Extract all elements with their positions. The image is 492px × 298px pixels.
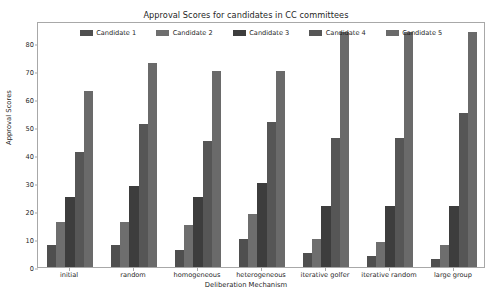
bar [367, 256, 376, 267]
legend-swatch-icon [80, 30, 93, 36]
bar [385, 206, 394, 268]
bar [212, 71, 221, 267]
bar [184, 225, 193, 267]
bar [395, 138, 404, 267]
x-axis-label: Deliberation Mechanism [0, 281, 492, 289]
plot-inner [38, 23, 484, 267]
x-axis-tick-label: iterative random [361, 271, 416, 279]
bar [111, 245, 120, 267]
legend-entry[interactable]: Candidate 1 [80, 29, 137, 37]
bar [431, 259, 440, 267]
x-axis-tick-label: random [120, 271, 146, 279]
legend-swatch-icon [386, 30, 399, 36]
legend-label: Candidate 1 [96, 29, 136, 37]
legend-label: Candidate 5 [402, 29, 442, 37]
y-axis-tick-mark [35, 157, 38, 158]
bar [267, 122, 276, 267]
bar [459, 113, 468, 267]
bar [120, 222, 129, 267]
y-axis-tick-mark [35, 241, 38, 242]
legend-swatch-icon [309, 30, 322, 36]
y-axis-tick-mark [35, 129, 38, 130]
bar [193, 197, 202, 267]
plot-area: 01020304050607080 [37, 22, 485, 268]
legend-label: Candidate 3 [249, 29, 289, 37]
bar [203, 141, 212, 267]
bar [449, 206, 458, 268]
legend-entry[interactable]: Candidate 4 [309, 29, 366, 37]
bar [257, 183, 266, 267]
bar [340, 32, 349, 267]
bar [56, 222, 65, 267]
y-axis-tick-mark [35, 45, 38, 46]
bar [139, 124, 148, 267]
bar [468, 32, 477, 267]
bar [321, 206, 330, 268]
bar [376, 242, 385, 267]
y-axis-tick-mark [35, 101, 38, 102]
x-axis-tick-label: large group [434, 271, 472, 279]
y-axis-tick-mark [35, 185, 38, 186]
bar [47, 245, 56, 267]
legend-entry[interactable]: Candidate 3 [233, 29, 290, 37]
bar [331, 138, 340, 267]
legend-label: Candidate 2 [173, 29, 213, 37]
bar [148, 63, 157, 267]
bar [303, 253, 312, 267]
bar [239, 239, 248, 267]
bar [404, 32, 413, 267]
legend-entry[interactable]: Candidate 2 [156, 29, 213, 37]
bar [276, 71, 285, 267]
legend-swatch-icon [156, 30, 169, 36]
y-axis-tick-mark [35, 269, 38, 270]
x-axis-tick-label: iterative golfer [301, 271, 350, 279]
y-axis-label: Approval Scores [5, 90, 13, 145]
chart-legend: Candidate 1Candidate 2Candidate 3Candida… [37, 26, 485, 39]
chart-figure: Approval Scores for candidates in CC com… [0, 0, 492, 298]
bar [75, 152, 84, 267]
legend-swatch-icon [233, 30, 246, 36]
bar [312, 239, 321, 267]
bar [129, 186, 138, 267]
x-axis-tick-label: homogeneous [174, 271, 221, 279]
bar [440, 245, 449, 267]
x-axis-tick-label: initial [60, 271, 78, 279]
bar [248, 214, 257, 267]
bar [84, 91, 93, 267]
chart-title: Approval Scores for candidates in CC com… [0, 10, 492, 20]
y-axis-tick-mark [35, 73, 38, 74]
bar [65, 197, 74, 267]
x-axis-tick-label: heterogeneous [236, 271, 286, 279]
legend-label: Candidate 4 [326, 29, 366, 37]
bar [175, 250, 184, 267]
legend-entry[interactable]: Candidate 5 [386, 29, 443, 37]
y-axis-tick-mark [35, 213, 38, 214]
